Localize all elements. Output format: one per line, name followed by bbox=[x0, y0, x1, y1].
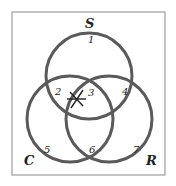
region-label-2: 2 bbox=[54, 86, 61, 97]
region-label-5: 5 bbox=[44, 144, 50, 155]
venn-diagram: S C R 1 2 3 4 5 6 7 bbox=[0, 0, 176, 186]
region-label-6: 6 bbox=[89, 144, 96, 155]
set-label-r: R bbox=[145, 153, 157, 168]
region-label-3: 3 bbox=[88, 87, 94, 98]
region-label-1: 1 bbox=[88, 34, 94, 45]
set-label-c: C bbox=[24, 153, 35, 168]
region-label-4: 4 bbox=[121, 86, 128, 97]
region-label-7: 7 bbox=[133, 144, 140, 155]
set-label-s: S bbox=[85, 16, 94, 31]
